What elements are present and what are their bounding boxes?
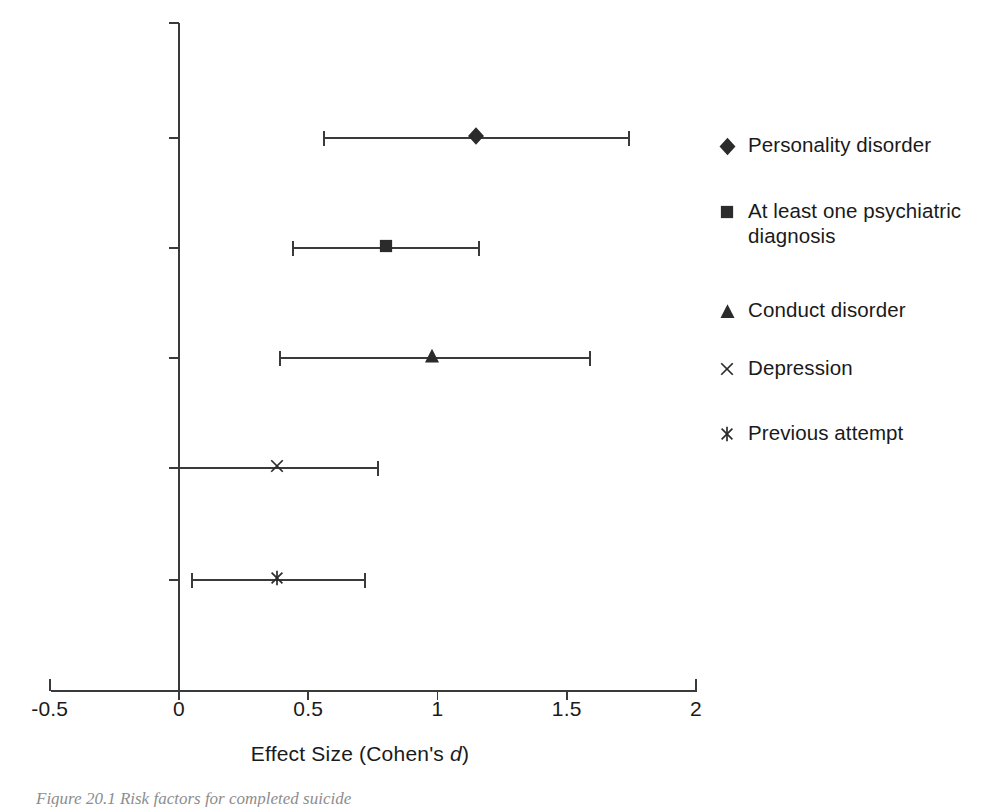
ci-lower-cap <box>178 461 180 476</box>
plot-area: -0.500.511.52 Effect Size (Cohen's d) Pe… <box>0 0 982 807</box>
ci-lower-cap <box>191 573 193 588</box>
x-axis-line <box>51 690 697 692</box>
triangle-marker <box>716 297 738 321</box>
legend-item[interactable]: Personality disorder <box>716 132 931 157</box>
ci-upper-cap <box>377 461 379 476</box>
figure-caption: Figure 20.1 Risk factors for completed s… <box>36 789 596 807</box>
legend-item-label: Conduct disorder <box>748 297 906 322</box>
diamond-marker <box>716 132 738 156</box>
legend-item-label: Depression <box>748 355 853 380</box>
legend-item[interactable]: Previous attempt <box>716 420 903 445</box>
x-axis-tick <box>695 679 697 691</box>
y-axis-tick <box>169 137 179 139</box>
y-axis-tick <box>169 357 179 359</box>
ci-lower-cap <box>292 241 294 256</box>
x-axis-title-prefix: Effect Size (Cohen's <box>251 742 450 765</box>
square-marker <box>716 198 738 222</box>
cross-marker <box>716 355 738 379</box>
x-axis-title-italic-d: d <box>450 742 462 765</box>
legend-item[interactable]: At least one psychiatric diagnosis <box>716 198 978 248</box>
ci-lower-cap <box>323 131 325 146</box>
cross-marker <box>268 457 286 479</box>
y-axis-tick <box>169 579 179 581</box>
x-axis-tick-label: 0 <box>173 697 185 721</box>
diamond-marker <box>467 127 486 150</box>
legend-item-label: Personality disorder <box>748 132 931 157</box>
y-axis-tick <box>169 247 179 249</box>
asterisk-marker <box>716 420 738 444</box>
ci-lower-cap <box>279 351 281 366</box>
x-axis-tick-label: 0.5 <box>293 697 323 721</box>
legend-item-label: Previous attempt <box>748 420 903 445</box>
ci-upper-cap <box>478 241 480 256</box>
forest-plot-figure: -0.500.511.52 Effect Size (Cohen's d) Pe… <box>0 0 982 807</box>
x-axis-tick-label: 2 <box>690 697 702 721</box>
x-axis-tick-label: 1 <box>432 697 444 721</box>
y-axis-tick <box>169 22 179 24</box>
ci-upper-cap <box>364 573 366 588</box>
ci-upper-cap <box>628 131 630 146</box>
legend-item[interactable]: Conduct disorder <box>716 297 906 322</box>
square-marker <box>377 237 395 259</box>
legend-item[interactable]: Depression <box>716 355 853 380</box>
x-axis-tick <box>49 679 51 691</box>
x-axis-tick-label: 1.5 <box>552 697 582 721</box>
x-axis-title-suffix: ) <box>462 742 469 765</box>
x-axis-title: Effect Size (Cohen's d) <box>0 742 720 766</box>
triangle-marker <box>423 347 442 370</box>
asterisk-marker <box>268 569 286 591</box>
ci-upper-cap <box>589 351 591 366</box>
x-axis-tick-label: -0.5 <box>31 697 68 721</box>
legend-item-label: At least one psychiatric diagnosis <box>748 198 978 248</box>
